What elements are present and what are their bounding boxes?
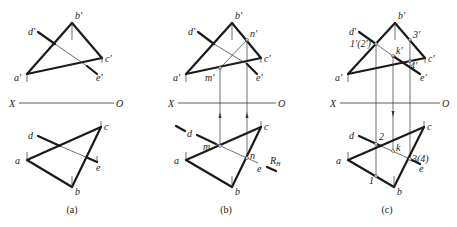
label-b: b	[75, 186, 80, 197]
label-b: b	[397, 186, 402, 197]
label-4-prime: 4'	[410, 60, 418, 71]
label-k-prime: k'	[396, 45, 403, 56]
label-2: 2	[379, 131, 384, 142]
label-1: 1	[369, 175, 374, 186]
caption-b: (b)	[220, 204, 232, 216]
label-c-prime: c'	[105, 53, 112, 64]
label-c: c	[264, 121, 269, 132]
label-m-prime: m'	[205, 72, 215, 83]
panel-c: b' d' 1'(2') 3' k' c' 4' a' e' X O	[329, 10, 449, 216]
label-d-prime: d'	[349, 26, 357, 37]
panel-b: b' d' n' c' a' m' e' X O d	[167, 10, 285, 216]
label-c: c	[104, 121, 109, 132]
arrow-down-icon	[392, 111, 395, 117]
label-b-prime: b'	[235, 10, 243, 21]
front-view-line-de	[198, 32, 257, 74]
point-n	[246, 157, 249, 160]
arrow-up-icon	[219, 112, 222, 118]
label-3-prime: 3'	[412, 29, 421, 40]
label-d: d	[187, 128, 193, 139]
label-e-prime: e'	[256, 72, 263, 83]
label-a: a	[174, 155, 179, 166]
point-2	[375, 143, 378, 146]
label-c-prime: c'	[264, 53, 271, 64]
panel-a: b' d' c' a' e' X O d c a e b (a)	[8, 10, 123, 216]
label-e-prime: e'	[420, 72, 427, 83]
projection-diagram: b' d' c' a' e' X O d c a e b (a)	[0, 0, 457, 227]
label-b: b	[235, 186, 240, 197]
point-k	[392, 150, 395, 153]
label-x: X	[167, 98, 175, 109]
caption-c: (c)	[381, 204, 392, 216]
label-e-prime: e'	[96, 72, 103, 83]
label-n: n	[250, 150, 255, 161]
point-3-4	[409, 158, 412, 161]
label-b-prime: b'	[75, 10, 83, 21]
label-c-prime: c'	[428, 53, 435, 64]
top-view-triangle	[27, 121, 101, 187]
label-e: e	[96, 162, 101, 173]
label-c: c	[427, 121, 432, 132]
label-x: X	[8, 98, 16, 109]
caption-a: (a)	[66, 204, 77, 216]
label-b-prime: b'	[398, 10, 406, 21]
point-m	[219, 145, 222, 148]
label-o: O	[116, 98, 123, 109]
label-1-2-prime: 1'(2')	[350, 38, 372, 50]
top-view-line-de	[38, 136, 97, 162]
label-m: m	[203, 141, 210, 152]
label-a-prime: a'	[335, 72, 343, 83]
label-a-prime: a'	[14, 72, 22, 83]
point-1	[375, 175, 378, 178]
label-rh: RH	[269, 155, 281, 167]
label-e: e	[257, 163, 262, 174]
label-a: a	[336, 155, 341, 166]
label-n-prime: n'	[250, 28, 258, 39]
label-o: O	[442, 98, 449, 109]
label-k: k	[396, 142, 401, 153]
label-a-prime: a'	[173, 72, 181, 83]
label-o: O	[278, 98, 285, 109]
label-e: e	[419, 163, 424, 174]
label-x: X	[329, 98, 337, 109]
arrow-up-icon	[246, 112, 249, 118]
label-a: a	[15, 155, 20, 166]
label-d-prime: d'	[188, 26, 196, 37]
label-d-prime: d'	[28, 26, 36, 37]
label-d: d	[349, 130, 355, 141]
label-d: d	[28, 130, 34, 141]
